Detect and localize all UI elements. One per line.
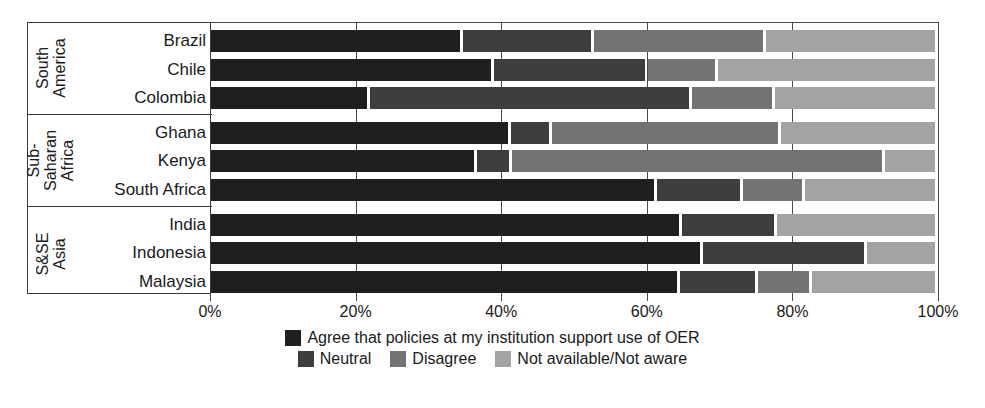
bar-segment: [812, 271, 935, 293]
legend-label: Disagree: [412, 351, 476, 367]
bar-segment: [210, 87, 367, 109]
x-tick-label-40%: 40%: [461, 303, 541, 321]
bar-row: [210, 214, 938, 236]
legend-swatch: [390, 351, 406, 367]
legend-label: Neutral: [320, 351, 372, 367]
bar-segment: [594, 30, 764, 52]
x-tick-100%: [938, 294, 939, 301]
bars-layer: [210, 22, 938, 294]
category-label-ghana: Ghana: [155, 122, 206, 144]
category-label-indonesia: Indonesia: [132, 242, 206, 264]
x-tick-20%: [356, 294, 357, 301]
x-tick-label-100%: 100%: [898, 303, 978, 321]
stacked-bar-chart: SouthAmericaBrazilChileColombiaSub-Sahar…: [0, 0, 985, 408]
gridline-100%: [938, 22, 939, 294]
bar-segment: [210, 30, 460, 52]
legend-label: Agree that policies at my institution su…: [307, 330, 699, 346]
bar-segment: [463, 30, 590, 52]
x-tick-label-20%: 20%: [316, 303, 396, 321]
group-label: S&SEAsia: [28, 207, 76, 301]
bar-segment: [648, 59, 715, 81]
category-label-colombia: Colombia: [134, 87, 206, 109]
legend-item: Neutral: [298, 351, 372, 367]
category-labels: IndiaIndonesiaMalaysia: [76, 207, 206, 301]
bar-segment: [743, 179, 802, 201]
bar-segment: [805, 179, 935, 201]
bar-segment: [210, 150, 474, 172]
bar-segment: [758, 271, 809, 293]
category-label-chile: Chile: [167, 59, 206, 81]
bar-segment: [210, 214, 679, 236]
category-label-malaysia: Malaysia: [139, 271, 206, 293]
bar-segment: [766, 30, 935, 52]
bar-segment: [210, 59, 491, 81]
x-tick-40%: [501, 294, 502, 301]
x-tick-0%: [210, 294, 211, 301]
group-block-south-america: SouthAmericaBrazilChileColombia: [28, 23, 212, 115]
category-labels: BrazilChileColombia: [76, 23, 206, 114]
bar-row: [210, 150, 938, 172]
bar-segment: [680, 271, 755, 293]
x-tick-label-60%: 60%: [607, 303, 687, 321]
bar-segment: [210, 242, 700, 264]
bar-segment: [692, 87, 772, 109]
bar-row: [210, 30, 938, 52]
group-label: Sub-SaharanAfrica: [28, 115, 76, 206]
x-tick-80%: [792, 294, 793, 301]
bar-segment: [775, 87, 935, 109]
category-label-india: India: [169, 214, 206, 236]
bar-segment: [210, 179, 654, 201]
x-tick-label-0%: 0%: [170, 303, 250, 321]
bar-segment: [210, 122, 508, 144]
bar-row: [210, 271, 938, 293]
bar-row: [210, 242, 938, 264]
group-block-s-se-asia: S&SEAsiaIndiaIndonesiaMalaysia: [28, 207, 212, 301]
bar-segment: [494, 59, 645, 81]
category-label-kenya: Kenya: [158, 150, 206, 172]
bar-segment: [210, 271, 677, 293]
legend-swatch: [285, 330, 301, 346]
x-tick-60%: [647, 294, 648, 301]
bar-row: [210, 59, 938, 81]
bar-segment: [512, 150, 882, 172]
category-labels: GhanaKenyaSouth Africa: [76, 115, 206, 206]
legend-row-1: Agree that policies at my institution su…: [0, 330, 985, 346]
bar-segment: [511, 122, 549, 144]
category-label-south-africa: South Africa: [114, 179, 206, 201]
legend-item: Agree that policies at my institution su…: [285, 330, 699, 346]
bar-segment: [657, 179, 740, 201]
chart-legend: Agree that policies at my institution su…: [0, 330, 985, 372]
bar-segment: [477, 150, 509, 172]
category-label-brazil: Brazil: [163, 30, 206, 52]
group-block-sub-saharan-africa: Sub-SaharanAfricaGhanaKenyaSouth Africa: [28, 115, 212, 207]
legend-row-2: NeutralDisagreeNot available/Not aware: [0, 351, 985, 367]
bar-row: [210, 179, 938, 201]
legend-swatch: [495, 351, 511, 367]
bar-segment: [867, 242, 935, 264]
bar-segment: [777, 214, 935, 236]
group-label: SouthAmerica: [28, 23, 76, 114]
bar-segment: [552, 122, 778, 144]
legend-label: Not available/Not aware: [517, 351, 687, 367]
bar-segment: [370, 87, 689, 109]
bar-segment: [682, 214, 774, 236]
bar-row: [210, 87, 938, 109]
bar-segment: [718, 59, 935, 81]
bar-row: [210, 122, 938, 144]
legend-item: Not available/Not aware: [495, 351, 687, 367]
legend-item: Disagree: [390, 351, 476, 367]
category-label-table: SouthAmericaBrazilChileColombiaSub-Sahar…: [27, 22, 211, 294]
legend-swatch: [298, 351, 314, 367]
bar-segment: [781, 122, 935, 144]
x-tick-label-80%: 80%: [752, 303, 832, 321]
bar-segment: [885, 150, 935, 172]
bar-segment: [703, 242, 864, 264]
